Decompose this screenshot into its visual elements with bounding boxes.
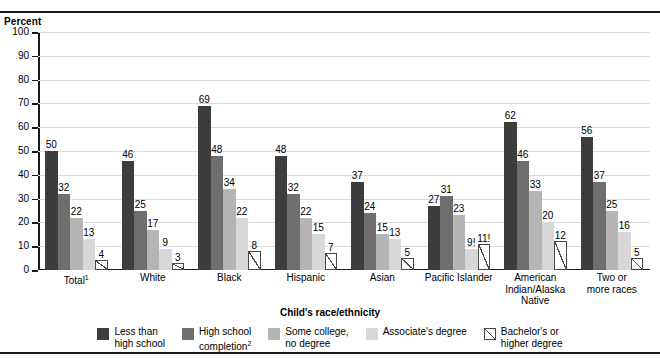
- bar-value-label: 5: [404, 248, 410, 258]
- bar-value-label: 25: [606, 200, 617, 210]
- x-axis-category-label: Asian: [344, 272, 421, 307]
- bar: 31: [440, 196, 453, 270]
- bar-group: 483222157: [268, 32, 345, 270]
- legend-swatch: [182, 328, 194, 340]
- y-axis-tick-label: 90: [18, 51, 29, 61]
- bar: 48: [275, 156, 288, 270]
- y-axis-tick-label: 80: [18, 75, 29, 85]
- y-axis-tick-label: 100: [12, 27, 29, 37]
- bar-value-label: 24: [364, 202, 375, 212]
- x-axis-category-label: Two or more races: [574, 272, 651, 307]
- legend-swatch: [97, 328, 109, 340]
- bar: 13: [389, 239, 402, 270]
- bar: 12: [554, 241, 567, 270]
- bar-groups: 5032221344625179369483422848322215737241…: [38, 32, 650, 270]
- y-axis-tick-label: 0: [23, 265, 29, 275]
- bar-group: 2731239!11!: [421, 32, 498, 270]
- legend-item[interactable]: Bachelor's or higher degree: [484, 326, 563, 349]
- bar: 11!: [478, 244, 491, 270]
- y-axis-tick-label: 40: [18, 170, 29, 180]
- bar-value-label: 31: [441, 185, 452, 195]
- bar-value-label: 4: [98, 250, 104, 260]
- legend-swatch: [268, 328, 280, 340]
- bar: 50: [45, 151, 58, 270]
- bar-value-label: 8: [251, 241, 257, 251]
- x-axis-category-label: Total1: [38, 272, 115, 307]
- bar-value-label: 20: [542, 211, 553, 221]
- bar-value-label: 9: [162, 238, 168, 248]
- bar: 5: [401, 258, 414, 270]
- bar-value-label: 11!: [477, 234, 490, 244]
- bar-value-label: 3: [175, 253, 181, 263]
- legend-label: Some college, no degree: [285, 326, 348, 349]
- legend-label: High school completion2: [199, 326, 251, 352]
- bar: 33: [529, 191, 542, 270]
- legend-label: Associate's degree: [383, 326, 467, 338]
- bar: 34: [223, 189, 236, 270]
- bar-value-label: 15: [313, 223, 324, 233]
- bar-value-label: 46: [122, 150, 133, 160]
- bar: 3: [172, 263, 185, 270]
- bar: 15: [376, 234, 389, 270]
- bar: 62: [504, 122, 517, 270]
- bar-value-label: 23: [453, 204, 464, 214]
- bar: 69: [198, 106, 211, 270]
- bar-value-label: 13: [389, 228, 400, 238]
- y-axis-tick-label: 70: [18, 98, 29, 108]
- x-axis-category-label: White: [115, 272, 192, 307]
- bar: 16: [618, 232, 631, 270]
- bar: 25: [134, 211, 147, 271]
- legend-item[interactable]: Some college, no degree: [268, 326, 348, 349]
- chart-figure: Percent 1009080706050403020100 503222134…: [0, 0, 660, 359]
- y-axis-tick-label: 60: [18, 122, 29, 132]
- bar-value-label: 62: [505, 111, 516, 121]
- legend-item[interactable]: Associate's degree: [366, 326, 467, 340]
- bar: 22: [70, 218, 83, 270]
- bar-value-label: 15: [377, 223, 388, 233]
- y-axis-tick-label: 10: [18, 241, 29, 251]
- bar-value-label: 5: [634, 248, 640, 258]
- bar: 32: [287, 194, 300, 270]
- bar-group: 694834228: [191, 32, 268, 270]
- bar: 46: [517, 161, 530, 270]
- bar: 15: [312, 234, 325, 270]
- bar: 5: [631, 258, 644, 270]
- top-divider: [0, 11, 660, 13]
- bar-group: 6246332012: [497, 32, 574, 270]
- bar-value-label: 12: [555, 231, 566, 241]
- bar-value-label: 34: [224, 178, 235, 188]
- bar: 8: [248, 251, 261, 270]
- bar-value-label: 56: [581, 126, 592, 136]
- bar-value-label: 32: [58, 183, 69, 193]
- bar: 48: [211, 156, 224, 270]
- bar-value-label: 37: [594, 171, 605, 181]
- bar-value-label: 46: [517, 150, 528, 160]
- bar: 20: [542, 222, 555, 270]
- x-axis-category-label: Pacific Islander: [421, 272, 498, 307]
- legend-label: Bachelor's or higher degree: [501, 326, 563, 349]
- bar: 25: [606, 211, 619, 271]
- bar-value-label: 16: [619, 221, 630, 231]
- legend-swatch: [484, 328, 496, 340]
- bar: 4: [95, 260, 108, 270]
- bar-value-label: 25: [135, 200, 146, 210]
- bar: 32: [58, 194, 71, 270]
- bar-value-label: 48: [275, 145, 286, 155]
- bar: 46: [122, 161, 135, 270]
- x-axis-tick-labels: Total1WhiteBlackHispanicAsianPacific Isl…: [38, 272, 650, 307]
- bar-value-label: 9!: [467, 238, 475, 248]
- bar: 37: [351, 182, 364, 270]
- bar-value-label: 22: [300, 207, 311, 217]
- bar-value-label: 22: [71, 207, 82, 217]
- bar-value-label: 50: [46, 140, 57, 150]
- bar-value-label: 48: [211, 145, 222, 155]
- bar-group: 46251793: [115, 32, 192, 270]
- bar-value-label: 13: [83, 228, 94, 238]
- y-axis-tick-label: 20: [18, 217, 29, 227]
- bar: 22: [300, 218, 313, 270]
- bar: 9!: [465, 249, 478, 270]
- legend-item[interactable]: Less than high school: [97, 326, 165, 349]
- y-axis-tick-label: 50: [18, 146, 29, 156]
- legend-item[interactable]: High school completion2: [182, 326, 251, 352]
- bar: 37: [593, 182, 606, 270]
